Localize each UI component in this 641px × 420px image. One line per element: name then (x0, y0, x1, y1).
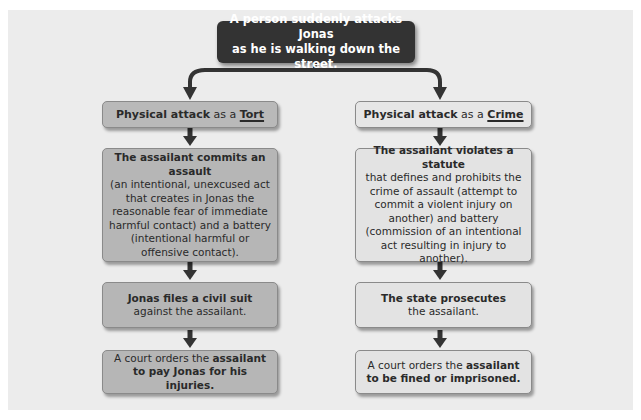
arrow-down-icon (183, 136, 197, 146)
tort-step-2-text: against the assailant. (134, 305, 247, 317)
crime-step-2-box: The state prosecutes the assailant. (355, 282, 532, 328)
crime-step-1-box: The assailant violates a statute that de… (355, 148, 532, 262)
arrow-down-icon (433, 338, 447, 348)
crime-step-1-text: that defines and prohibits the crime of … (361, 171, 526, 266)
tort-header-box: Physical attack as a Tort (102, 101, 278, 128)
branch-left-connector (190, 70, 315, 90)
crime-step-3-box: A court orders the assailant to be fined… (355, 350, 532, 394)
crime-step-2-bold: The state prosecutes (381, 292, 506, 304)
tort-step-3-box: A court orders the assailant to pay Jona… (102, 350, 278, 394)
arrow-down-icon (183, 338, 197, 348)
tort-header-bold: Physical attack (116, 108, 210, 121)
arrow-down-icon (183, 270, 197, 280)
scenario-line-1: A person suddenly attacks Jonas (217, 12, 415, 42)
tort-step-1-text: (an intentional, unexcused act that crea… (109, 178, 271, 259)
scenario-box: A person suddenly attacks Jonas as he is… (217, 21, 415, 63)
crime-header-mid: as a (458, 108, 488, 121)
tort-term: Tort (240, 108, 264, 121)
crime-step-3-text: A court orders the (368, 359, 467, 371)
arrow-down-icon (433, 87, 447, 100)
crime-step-2-text: the assailant. (408, 305, 479, 317)
tort-step-2-bold: Jonas files a civil suit (128, 292, 253, 304)
arrow-down-icon (183, 87, 197, 100)
tort-step-2-box: Jonas files a civil suit against the ass… (102, 282, 278, 328)
tort-header-mid: as a (210, 108, 240, 121)
crime-header-bold: Physical attack (363, 108, 457, 121)
scenario-line-2: as he is walking down the street. (217, 42, 415, 72)
crime-step-1-bold: The assailant violates a statute (374, 144, 514, 170)
arrow-down-icon (433, 270, 447, 280)
branch-right-connector (315, 70, 440, 90)
tort-step-1-bold: The assailant commits an assault (115, 151, 266, 177)
crime-term: Crime (487, 108, 523, 121)
tort-step-3-text: A court orders the (114, 352, 213, 364)
tort-step-1-box: The assailant commits an assault (an int… (102, 148, 278, 262)
crime-header-box: Physical attack as a Crime (355, 101, 532, 128)
